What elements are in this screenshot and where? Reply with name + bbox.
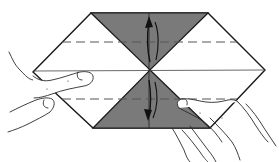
origami-diagram xyxy=(0,0,279,162)
